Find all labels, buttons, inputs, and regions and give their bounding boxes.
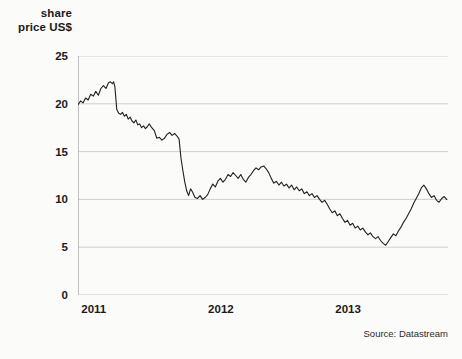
y-tick-label-0: 0: [38, 289, 68, 301]
x-tick-label-2012: 2012: [208, 303, 234, 315]
y-tick-label-20: 20: [38, 98, 68, 110]
y-axis-title-line1: share: [0, 6, 72, 20]
y-tick-label-25: 25: [38, 50, 68, 62]
x-tick-label-2013: 2013: [335, 303, 361, 315]
gridlines: [78, 56, 448, 295]
y-tick-label-15: 15: [38, 146, 68, 158]
series-line-share-price: [78, 82, 447, 245]
y-tick-label-10: 10: [38, 193, 68, 205]
share-price-line-chart: share price US$ 0510152025 201120122013 …: [0, 0, 462, 359]
source-note: Source: Datastream: [364, 328, 448, 339]
x-tick-label-2011: 2011: [81, 303, 106, 315]
y-axis-title: share price US$: [0, 6, 72, 34]
y-axis-title-line2: price US$: [0, 20, 72, 34]
plot-area: [78, 56, 448, 295]
y-tick-label-5: 5: [38, 241, 68, 253]
axis-tick-marks: [78, 56, 406, 295]
plot-svg: [78, 56, 448, 295]
